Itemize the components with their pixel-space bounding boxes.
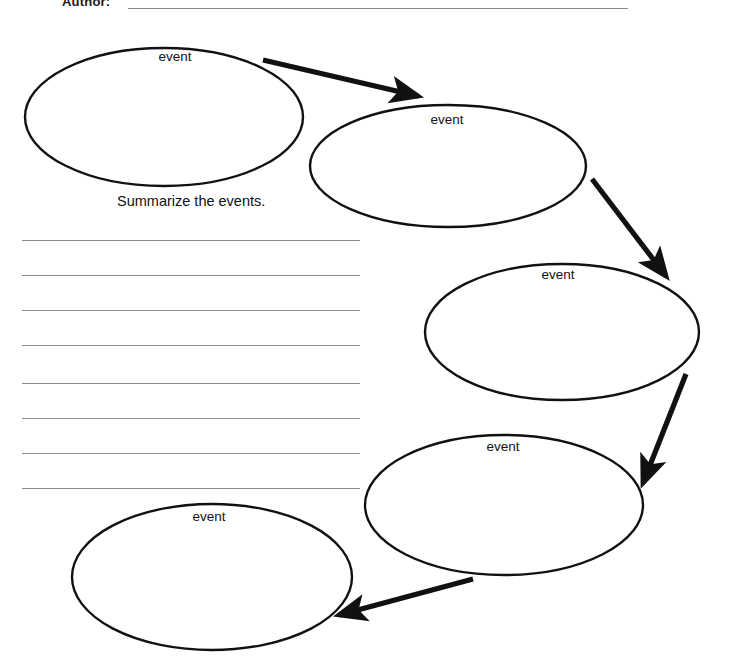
writing-line[interactable] [22, 418, 360, 419]
writing-line[interactable] [22, 240, 360, 241]
writing-line[interactable] [22, 488, 360, 489]
arrow-event4-to-event5 [339, 579, 473, 615]
event-oval-3[interactable] [425, 264, 699, 400]
arrow-event3-to-event4 [643, 374, 686, 483]
writing-line[interactable] [22, 345, 360, 346]
arrow-event2-to-event3 [592, 179, 666, 276]
writing-line[interactable] [22, 310, 360, 311]
event-oval-3-label: event [541, 267, 574, 282]
writing-line[interactable] [22, 275, 360, 276]
event-oval-2-label: event [430, 112, 463, 127]
writing-line[interactable] [22, 383, 360, 384]
event-oval-1-label: event [158, 49, 191, 64]
summary-writing-area[interactable] [22, 232, 360, 502]
worksheet-page: Author: event event event event event Su… [0, 0, 731, 672]
event-oval-4[interactable] [365, 435, 643, 575]
arrow-event1-to-event2 [263, 60, 418, 96]
writing-line[interactable] [22, 453, 360, 454]
summarize-prompt: Summarize the events. [117, 193, 265, 209]
event-oval-5-label: event [192, 509, 225, 524]
event-oval-4-label: event [486, 439, 519, 454]
event-oval-1[interactable] [25, 48, 303, 186]
event-oval-5[interactable] [72, 504, 352, 650]
